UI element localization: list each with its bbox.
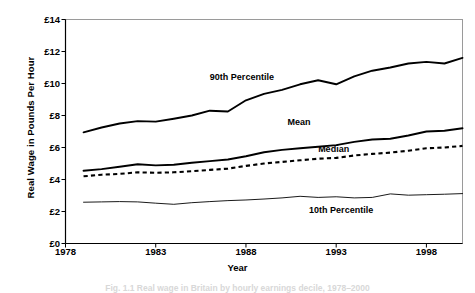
x-axis-tick-label: 1993 xyxy=(306,246,366,257)
x-axis-tick-label: 1998 xyxy=(396,246,456,257)
y-axis-tick-label: £6 xyxy=(20,143,60,153)
figure-caption: Fig. 1.1 Real wage in Britain by hourly … xyxy=(0,283,475,293)
y-axis-tick-label: £8 xyxy=(20,111,60,121)
x-axis-tick-label: 1988 xyxy=(216,246,276,257)
x-axis-tick-label: 1983 xyxy=(126,246,186,257)
x-axis-title: Year xyxy=(0,262,475,273)
y-axis-tick-label: £12 xyxy=(20,47,60,57)
series-label: Mean xyxy=(287,117,310,127)
series-label: 10th Percentile xyxy=(309,205,373,215)
y-axis-tick-label: £14 xyxy=(20,15,60,25)
plot-frame xyxy=(66,20,463,244)
y-axis-tick-label: £10 xyxy=(20,79,60,89)
y-axis-tick-label: £4 xyxy=(20,175,60,185)
x-axis-tick-labels: 19781983198819931998 xyxy=(0,246,475,262)
series-label: 90th Percentile xyxy=(210,72,274,82)
y-axis-tick-label: £2 xyxy=(20,207,60,217)
x-axis-tick-label: 1978 xyxy=(36,246,96,257)
series-label: Median xyxy=(318,144,349,154)
